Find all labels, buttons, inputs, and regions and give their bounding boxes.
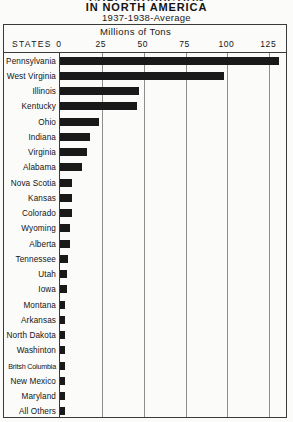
category-label-row: Illinois bbox=[4, 84, 59, 99]
category-label-row: Alabama bbox=[4, 160, 59, 175]
category-label-row: Tennessee bbox=[4, 251, 59, 266]
bar bbox=[60, 331, 65, 339]
bar-row bbox=[60, 358, 286, 373]
bar bbox=[60, 209, 72, 217]
bar-row bbox=[60, 160, 286, 175]
bar bbox=[60, 87, 139, 95]
category-label-row: Colorado bbox=[4, 206, 59, 221]
category-label: Montana bbox=[23, 300, 56, 309]
bar-row bbox=[60, 267, 286, 282]
bar-row bbox=[60, 206, 286, 221]
bar bbox=[60, 316, 65, 324]
category-label-row: All Others bbox=[4, 404, 59, 419]
category-label-row: West Virginia bbox=[4, 68, 59, 83]
bar bbox=[60, 179, 72, 187]
x-tick-50: 50 bbox=[137, 39, 148, 49]
bar-row bbox=[60, 99, 286, 114]
category-label: Maryland bbox=[22, 392, 56, 401]
category-label: Washinton bbox=[17, 346, 56, 355]
chart-title-block: COAL PRODUCTION IN NORTH AMERICA 1937-19… bbox=[0, 0, 293, 23]
category-label-row: Maryland bbox=[4, 389, 59, 404]
bar bbox=[60, 133, 90, 141]
category-label: Utah bbox=[38, 270, 56, 279]
category-label: All Others bbox=[19, 407, 56, 416]
category-label-row: Washinton bbox=[4, 343, 59, 358]
bar bbox=[60, 346, 65, 354]
category-label-row: New Mexico bbox=[4, 373, 59, 388]
chart-frame: Millions of Tons STATES 0255075100125 Pe… bbox=[3, 24, 287, 418]
bar-row bbox=[60, 312, 286, 327]
bar bbox=[60, 240, 70, 248]
category-label: Virginia bbox=[28, 148, 56, 157]
chart-axis-header: Millions of Tons STATES 0255075100125 bbox=[4, 25, 286, 53]
bar-row bbox=[60, 129, 286, 144]
chart-body: PennsylvaniaWest VirginiaIllinoisKentuck… bbox=[4, 53, 286, 417]
chart-page: COAL PRODUCTION IN NORTH AMERICA 1937-19… bbox=[0, 0, 293, 422]
category-label-row: Montana bbox=[4, 297, 59, 312]
bar-row bbox=[60, 251, 286, 266]
category-label: Ohio bbox=[38, 117, 56, 126]
category-label: Kansas bbox=[28, 193, 56, 202]
bar-row bbox=[60, 84, 286, 99]
bar-row bbox=[60, 175, 286, 190]
category-label: Tennessee bbox=[15, 254, 56, 263]
category-label: Wyoming bbox=[21, 224, 56, 233]
x-axis-title: Millions of Tons bbox=[100, 26, 171, 37]
bar-row bbox=[60, 236, 286, 251]
bar bbox=[60, 57, 279, 65]
bar-row bbox=[60, 53, 286, 68]
bar bbox=[60, 255, 68, 263]
bar bbox=[60, 148, 87, 156]
bar bbox=[60, 270, 67, 278]
category-label: Alabama bbox=[23, 163, 56, 172]
category-label-row: Indiana bbox=[4, 129, 59, 144]
category-label: Colorado bbox=[22, 209, 56, 218]
category-label-row: Wyoming bbox=[4, 221, 59, 236]
bar-row bbox=[60, 145, 286, 160]
bar-row bbox=[60, 328, 286, 343]
category-label: Pennsylvania bbox=[6, 56, 56, 65]
category-label-column: PennsylvaniaWest VirginiaIllinoisKentuck… bbox=[4, 53, 59, 417]
bar bbox=[60, 301, 65, 309]
plot-area bbox=[59, 53, 286, 417]
bar-row bbox=[60, 297, 286, 312]
category-label: Arkansas bbox=[21, 315, 56, 324]
y-axis-title: STATES bbox=[12, 39, 52, 49]
bar bbox=[60, 392, 65, 400]
category-label: Kentucky bbox=[22, 102, 56, 111]
bar bbox=[60, 362, 65, 370]
bar bbox=[60, 224, 70, 232]
category-label-row: Virginia bbox=[4, 145, 59, 160]
x-tick-75: 75 bbox=[179, 39, 190, 49]
bar bbox=[60, 407, 65, 415]
bar bbox=[60, 163, 82, 171]
bar bbox=[60, 102, 137, 110]
x-tick-0: 0 bbox=[56, 39, 61, 49]
category-label-row: Britsh Columbia bbox=[4, 358, 59, 373]
category-label-row: Nova Scotia bbox=[4, 175, 59, 190]
bar bbox=[60, 285, 67, 293]
bar bbox=[60, 72, 224, 80]
bar-row bbox=[60, 343, 286, 358]
category-label-row: North Dakota bbox=[4, 328, 59, 343]
bar bbox=[60, 377, 65, 385]
category-label-row: Utah bbox=[4, 267, 59, 282]
bar-row bbox=[60, 68, 286, 83]
category-label-row: Kentucky bbox=[4, 99, 59, 114]
chart-subtitle: 1937-1938-Average bbox=[0, 12, 293, 23]
bar-row bbox=[60, 373, 286, 388]
category-label: Iowa bbox=[38, 285, 56, 294]
category-label: North Dakota bbox=[7, 331, 56, 340]
bar bbox=[60, 118, 99, 126]
bar-row bbox=[60, 221, 286, 236]
category-label: Indiana bbox=[28, 132, 56, 141]
category-label: West Virginia bbox=[7, 71, 56, 80]
x-tick-25: 25 bbox=[96, 39, 107, 49]
category-label-row: Kansas bbox=[4, 190, 59, 205]
x-tick-100: 100 bbox=[218, 39, 234, 49]
category-label: Britsh Columbia bbox=[8, 361, 56, 370]
bar bbox=[60, 194, 72, 202]
bar-row bbox=[60, 190, 286, 205]
category-label-row: Alberta bbox=[4, 236, 59, 251]
category-label-row: Pennsylvania bbox=[4, 53, 59, 68]
